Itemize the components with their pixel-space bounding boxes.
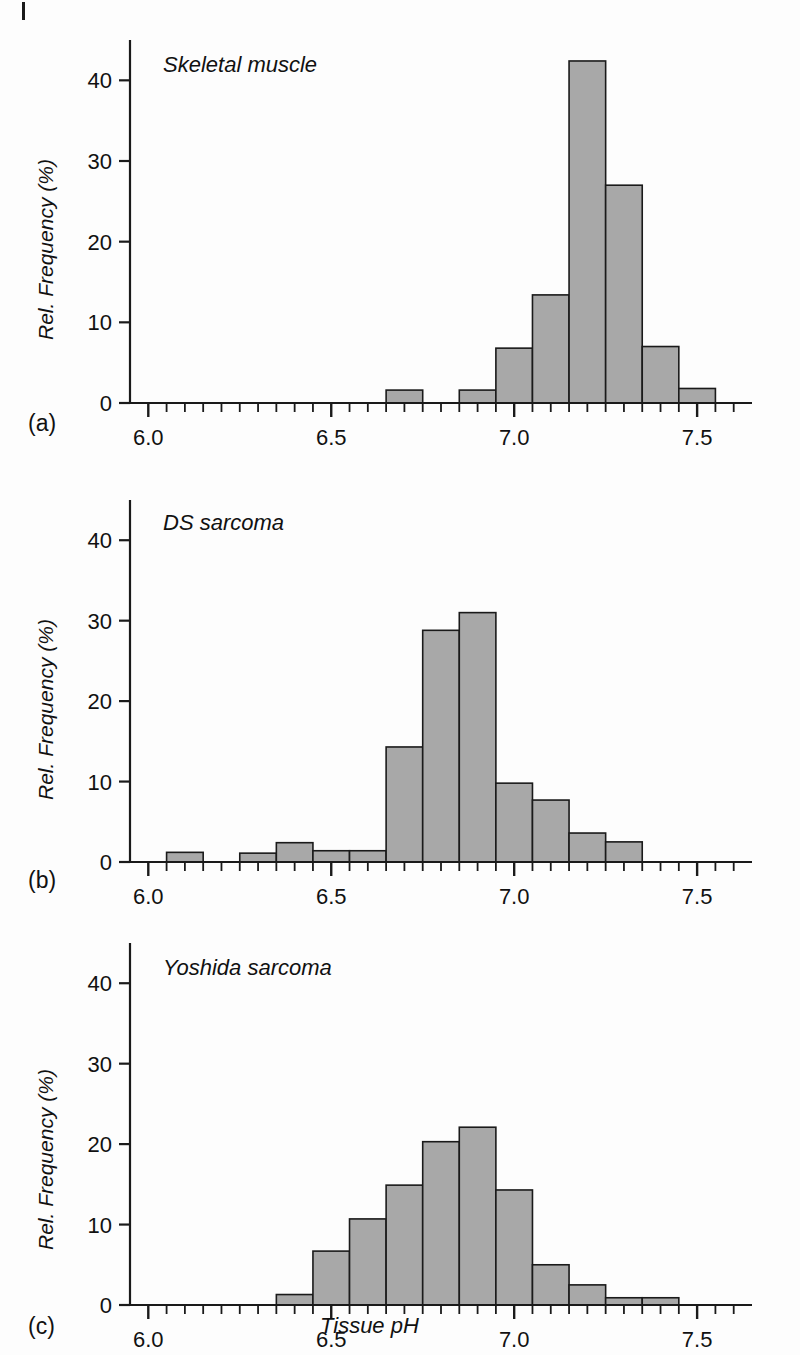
series-title-c: Yoshida sarcoma — [163, 955, 332, 981]
histogram-bar — [459, 1127, 496, 1305]
y-axis-label-c: Rel. Frequency (%) — [34, 1069, 58, 1250]
histogram-bar — [532, 295, 569, 403]
y-axis-ticklabel: 40 — [88, 68, 112, 93]
y-axis-ticklabel: 0 — [100, 1293, 112, 1318]
histogram-bar — [679, 388, 716, 403]
histogram-bar — [313, 851, 350, 862]
x-axis-ticklabel: 7.5 — [682, 884, 713, 905]
x-axis-ticklabel: 6.0 — [133, 425, 164, 450]
y-axis-label-b: Rel. Frequency (%) — [34, 619, 58, 800]
histogram-bar — [386, 390, 423, 403]
chart-b-bars — [167, 613, 643, 862]
histogram-bar — [569, 833, 606, 862]
panel-tag-a: (a) — [28, 410, 56, 437]
series-title-b: DS sarcoma — [163, 510, 284, 536]
x-axis-ticklabel: 7.0 — [499, 1327, 530, 1352]
y-axis-ticklabel: 30 — [88, 609, 112, 634]
histogram-bar — [569, 61, 606, 403]
panel-tag-c: (c) — [28, 1313, 55, 1340]
x-axis-label: Tissue pH — [320, 1313, 419, 1339]
histogram-bar — [167, 852, 204, 862]
x-axis-ticklabel: 7.5 — [682, 1327, 713, 1352]
histogram-bar — [496, 783, 533, 862]
chart-a-bars — [386, 61, 715, 403]
histogram-bar — [606, 185, 643, 403]
histogram-bar — [350, 1219, 387, 1305]
histogram-bar — [569, 1285, 606, 1305]
y-axis-ticklabel: 10 — [88, 770, 112, 795]
panel-yoshida-sarcoma: 0102030406.06.57.07.5 Yoshida sarcoma Re… — [0, 905, 800, 1355]
histogram-bar — [423, 1142, 460, 1305]
x-axis-ticklabel: 7.5 — [682, 425, 713, 450]
y-axis-ticklabel: 20 — [88, 230, 112, 255]
histogram-bar — [532, 1265, 569, 1305]
y-axis-ticklabel: 20 — [88, 1132, 112, 1157]
x-axis-ticklabel: 6.5 — [316, 425, 347, 450]
histogram-bar — [606, 842, 643, 862]
y-axis-ticklabel: 30 — [88, 1052, 112, 1077]
x-axis-ticklabel: 7.0 — [499, 425, 530, 450]
y-axis-ticklabel: 40 — [88, 528, 112, 553]
chart-a-svg: 0102030406.06.57.07.5 — [0, 10, 800, 450]
x-axis-ticklabel: 6.0 — [133, 884, 164, 905]
histogram-bar — [496, 348, 533, 403]
histogram-bar — [459, 613, 496, 862]
histogram-bar — [313, 1251, 350, 1305]
y-axis-ticklabel: 0 — [100, 391, 112, 416]
y-axis-ticklabel: 10 — [88, 310, 112, 335]
histogram-bar — [459, 390, 496, 403]
figure-page: 0102030406.06.57.07.5 Skeletal muscle Re… — [0, 0, 800, 1355]
histogram-bar — [642, 347, 679, 403]
x-axis-ticklabel: 7.0 — [499, 884, 530, 905]
histogram-bar — [532, 800, 569, 862]
histogram-bar — [276, 843, 313, 862]
histogram-bar — [240, 853, 277, 862]
histogram-bar — [386, 747, 423, 862]
histogram-bar — [386, 1185, 423, 1305]
y-axis-label-a: Rel. Frequency (%) — [34, 159, 58, 340]
histogram-bar — [496, 1190, 533, 1305]
chart-b-svg: 0102030406.06.57.07.5 — [0, 455, 800, 905]
panel-ds-sarcoma: 0102030406.06.57.07.5 DS sarcoma Rel. Fr… — [0, 455, 800, 905]
x-axis-ticklabel: 6.5 — [316, 884, 347, 905]
panel-skeletal-muscle: 0102030406.06.57.07.5 Skeletal muscle Re… — [0, 10, 800, 450]
x-axis-ticklabel: 6.0 — [133, 1327, 164, 1352]
chart-c-bars — [276, 1127, 678, 1305]
y-axis-ticklabel: 20 — [88, 689, 112, 714]
histogram-bar — [423, 630, 460, 862]
histogram-bar — [350, 851, 387, 862]
y-axis-ticklabel: 10 — [88, 1213, 112, 1238]
chart-c-svg: 0102030406.06.57.07.5 — [0, 905, 800, 1355]
histogram-bar — [276, 1295, 313, 1305]
y-axis-ticklabel: 30 — [88, 149, 112, 174]
y-axis-ticklabel: 40 — [88, 971, 112, 996]
series-title-a: Skeletal muscle — [163, 52, 317, 78]
y-axis-ticklabel: 0 — [100, 850, 112, 875]
panel-tag-b: (b) — [28, 867, 56, 894]
